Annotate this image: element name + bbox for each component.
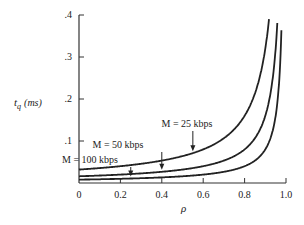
arrowhead-icon — [190, 145, 195, 151]
annotation-label: M = 25 kbps — [162, 118, 213, 129]
axes: 00.20.40.60.81.0.1.2.3.4 — [65, 9, 293, 200]
x-tick-label: 0.8 — [238, 189, 251, 200]
x-tick-label: 0 — [77, 189, 82, 200]
y-tick-label: .2 — [65, 93, 73, 104]
x-tick-label: 0.4 — [156, 189, 169, 200]
x-tick-label: 0.2 — [114, 189, 127, 200]
x-axis-label: ρ — [180, 202, 186, 214]
x-tick-label: 0.6 — [197, 189, 210, 200]
chart-svg: 00.20.40.60.81.0.1.2.3.4 M = 25 kbpsM = … — [0, 0, 304, 225]
y-tick-label: .3 — [65, 51, 73, 62]
x-tick-label: 1.0 — [280, 189, 293, 200]
y-tick-label: .1 — [65, 135, 73, 146]
y-tick-label: .4 — [65, 9, 73, 20]
arrowhead-icon — [159, 164, 164, 170]
annotation-label: M = 50 kbps — [93, 139, 144, 150]
annotation-label: M = 100 kbps — [62, 154, 118, 165]
y-axis-label: tq(ms) — [14, 96, 43, 111]
